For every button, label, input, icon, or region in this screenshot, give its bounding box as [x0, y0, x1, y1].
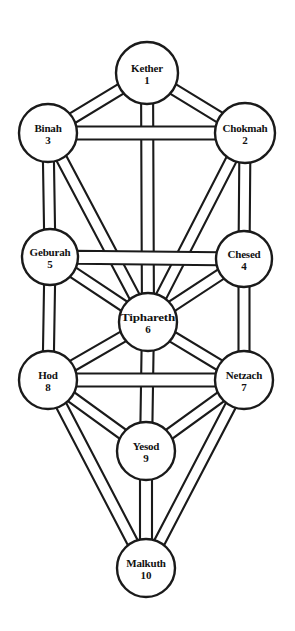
sephira-number-yesod: 9	[143, 452, 149, 464]
sephira-number-netzach: 7	[241, 381, 247, 393]
path-geburah-chesed	[75, 251, 219, 265]
sephira-number-tiphareth: 6	[145, 323, 151, 335]
sephira-name-chokmah: Chokmah	[222, 122, 267, 134]
sephira-name-chesed: Chesed	[227, 248, 260, 260]
sephira-binah[interactable]: Binah3	[19, 104, 77, 162]
path-binah-chokmah	[74, 127, 218, 140]
path-geburah-hod	[43, 282, 55, 354]
sephira-name-kether: Kether	[131, 62, 163, 74]
sephira-chokmah[interactable]: Chokmah2	[215, 103, 275, 163]
path-hod-netzach	[74, 374, 218, 387]
sephira-name-tiphareth: Tiphareth	[121, 311, 175, 323]
sephira-netzach[interactable]: Netzach7	[215, 351, 273, 409]
sephira-geburah[interactable]: Geburah5	[22, 229, 78, 285]
sephira-name-malkuth: Malkuth	[126, 557, 166, 569]
sephira-name-yesod: Yesod	[133, 440, 160, 452]
sephira-number-binah: 3	[45, 134, 51, 146]
sephira-yesod[interactable]: Yesod9	[117, 422, 175, 480]
path-tiphareth-hod	[68, 330, 129, 371]
sephira-name-geburah: Geburah	[30, 246, 71, 258]
path-kether-binah	[67, 83, 126, 124]
path-binah-geburah	[43, 159, 55, 232]
sephira-name-netzach: Netzach	[226, 369, 263, 381]
path-chesed-netzach	[239, 284, 250, 354]
path-chokmah-chesed	[239, 160, 251, 234]
sephira-number-geburah: 5	[47, 258, 53, 270]
sephira-hod[interactable]: Hod8	[19, 351, 77, 409]
sephira-name-binah: Binah	[34, 122, 61, 134]
sephira-number-kether: 1	[144, 74, 150, 86]
tree-of-life-diagram: Kether1Chokmah2Binah3Chesed4Geburah5Tiph…	[0, 0, 295, 631]
sephira-number-chokmah: 2	[242, 134, 248, 146]
sephira-name-hod: Hod	[38, 369, 58, 381]
sephira-malkuth[interactable]: Malkuth10	[117, 539, 175, 597]
path-yesod-malkuth	[140, 477, 152, 542]
sephira-chesed[interactable]: Chesed4	[216, 231, 272, 287]
sephira-number-hod: 8	[45, 381, 51, 393]
sephira-number-malkuth: 10	[141, 569, 153, 581]
sephira-number-chesed: 4	[241, 260, 247, 272]
path-kether-chokmah	[168, 83, 225, 124]
path-tiphareth-netzach	[167, 331, 224, 372]
tree-of-life-canvas: Kether1Chokmah2Binah3Chesed4Geburah5Tiph…	[0, 0, 295, 631]
sephira-kether[interactable]: Kether1	[116, 42, 178, 104]
sephira-tiphareth[interactable]: Tiphareth6	[119, 293, 177, 351]
